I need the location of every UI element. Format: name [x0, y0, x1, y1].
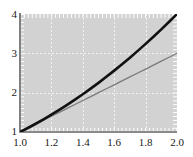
x-tick-label: 1.0	[7, 137, 33, 148]
y-tick-label: 2	[3, 87, 17, 98]
x-tick-label: 2.0	[164, 137, 190, 148]
x-tick-label: 1.6	[101, 137, 127, 148]
x-tick-label: 1.8	[133, 137, 159, 148]
y-tick-label: 3	[3, 48, 17, 59]
series-line-x-squared	[20, 14, 177, 132]
chart-figure: 4 3 2 1 1.0 1.2 1.4 1.6 1.8 2.0	[0, 0, 193, 157]
x-tick-label: 1.2	[38, 137, 64, 148]
data-curves	[20, 14, 177, 132]
x-tick-label: 1.4	[70, 137, 96, 148]
y-tick-label: 4	[3, 9, 17, 20]
